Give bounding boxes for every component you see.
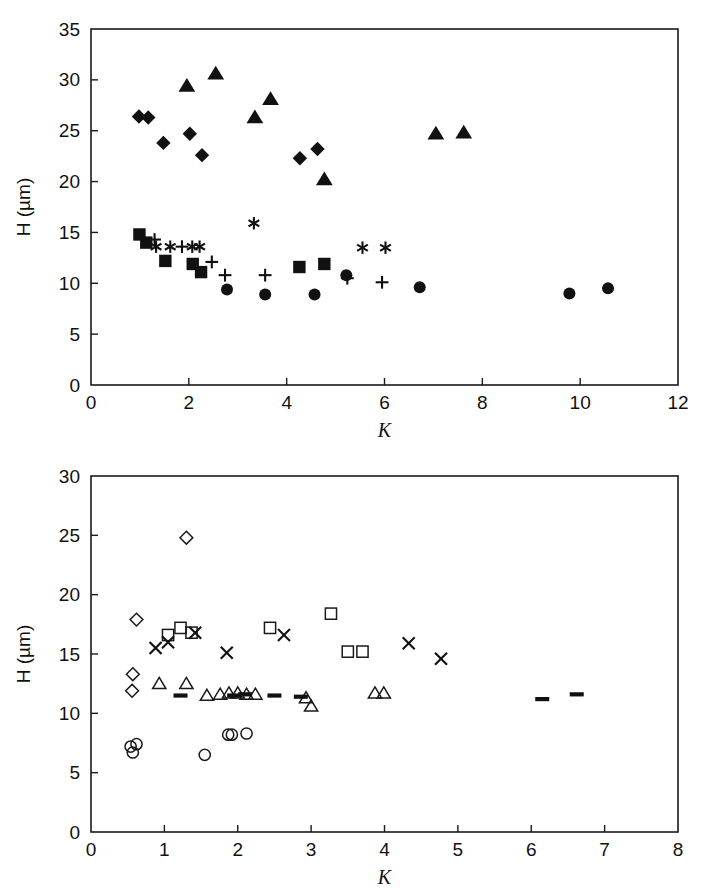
y-tick-label: 0	[69, 822, 80, 843]
plot-frame	[91, 29, 678, 385]
filled-square-marker	[140, 236, 152, 248]
series-filled-circle	[221, 269, 614, 300]
cross-marker	[435, 653, 447, 665]
filled-circle-marker	[563, 287, 575, 299]
open-triangle-marker	[377, 687, 390, 698]
filled-diamond-marker	[310, 142, 324, 156]
filled-square-marker	[318, 258, 330, 270]
filled-circle-marker	[221, 283, 233, 295]
dash-marker	[570, 692, 584, 696]
y-tick-label: 15	[59, 644, 80, 665]
filled-circle-marker	[414, 281, 426, 293]
open-diamond-marker	[130, 613, 143, 626]
dash-marker	[267, 693, 281, 697]
open-square-marker	[264, 622, 275, 633]
x-tick-label: 6	[526, 839, 537, 860]
x-axis: 024681012	[86, 378, 689, 413]
plot-frame	[91, 476, 678, 832]
y-tick-label: 25	[59, 525, 80, 546]
cross-marker	[278, 629, 290, 641]
open-diamond-marker	[126, 684, 139, 697]
y-axis: 051015202530	[59, 466, 98, 843]
x-tick-label: 3	[306, 839, 317, 860]
x-tick-label: 12	[667, 392, 688, 413]
filled-diamond-marker	[183, 127, 197, 141]
series-plus	[148, 233, 388, 289]
series-filled-square	[133, 228, 330, 278]
plus-marker	[176, 240, 189, 253]
filled-square-marker	[293, 261, 305, 273]
dash-marker	[535, 697, 549, 701]
dash-marker	[174, 693, 188, 697]
x-tick-label: 0	[86, 392, 97, 413]
series-filled-triangle	[178, 66, 472, 186]
x-tick-label: 0	[86, 839, 97, 860]
x-tick-label: 4	[281, 392, 292, 413]
cross-marker	[150, 642, 162, 654]
x-axis-title: K	[377, 419, 393, 441]
filled-diamond-marker	[195, 148, 209, 162]
asterisk-marker	[380, 241, 391, 253]
x-tick-label: 4	[379, 839, 390, 860]
scatter-plot-bottom: 051015202530012345678KH (µm)	[0, 447, 719, 894]
y-tick-label: 25	[59, 120, 80, 141]
x-tick-label: 1	[159, 839, 170, 860]
open-diamond-marker	[126, 668, 139, 681]
filled-circle-marker	[340, 269, 352, 281]
cross-marker	[189, 627, 201, 639]
plus-marker	[376, 276, 389, 289]
series-cross	[150, 627, 447, 665]
filled-square-marker	[195, 266, 207, 278]
series-filled-diamond	[132, 109, 325, 165]
open-triangle-marker	[368, 687, 381, 698]
filled-diamond-marker	[156, 136, 170, 150]
dash-marker	[238, 692, 252, 696]
y-tick-label: 15	[59, 222, 80, 243]
y-tick-label: 5	[69, 762, 80, 783]
scatter-panel-bottom: 051015202530012345678KH (µm)	[0, 447, 719, 894]
series-asterisk	[151, 217, 391, 254]
filled-triangle-marker	[178, 78, 195, 92]
x-tick-label: 2	[232, 839, 243, 860]
open-square-marker	[342, 646, 353, 657]
y-tick-label: 20	[59, 584, 80, 605]
open-triangle-marker	[180, 677, 193, 688]
filled-diamond-marker	[293, 151, 307, 165]
y-axis: 05101520253035	[59, 19, 98, 396]
asterisk-marker	[165, 240, 176, 252]
asterisk-marker	[187, 240, 198, 252]
open-circle-marker	[199, 749, 210, 760]
y-tick-label: 10	[59, 703, 80, 724]
y-axis-title: H (µm)	[13, 625, 34, 683]
filled-diamond-marker	[141, 110, 155, 124]
open-square-marker	[325, 608, 336, 619]
y-tick-label: 0	[69, 375, 80, 396]
filled-square-marker	[159, 255, 171, 267]
series-open-square	[162, 608, 368, 657]
x-tick-label: 6	[379, 392, 390, 413]
plus-marker	[259, 269, 272, 282]
filled-triangle-marker	[207, 66, 224, 80]
series-open-circle	[125, 728, 252, 761]
open-diamond-marker	[180, 531, 193, 544]
plus-marker	[219, 269, 232, 282]
open-triangle-marker	[153, 677, 166, 688]
y-tick-label: 35	[59, 19, 80, 40]
filled-circle-marker	[259, 288, 271, 300]
y-tick-label: 30	[59, 69, 80, 90]
y-tick-label: 20	[59, 171, 80, 192]
x-tick-label: 7	[599, 839, 610, 860]
cross-marker	[162, 636, 174, 648]
scatter-panel-top: 05101520253035024681012KH (µm)	[0, 0, 719, 447]
open-triangle-marker	[200, 689, 213, 700]
open-circle-marker	[241, 728, 252, 739]
filled-triangle-marker	[455, 125, 472, 139]
plus-marker	[205, 256, 218, 269]
asterisk-marker	[194, 240, 205, 252]
filled-triangle-marker	[427, 126, 444, 140]
cross-marker	[221, 647, 233, 659]
open-square-marker	[357, 646, 368, 657]
y-tick-label: 10	[59, 273, 80, 294]
filled-circle-marker	[309, 288, 321, 300]
x-axis: 012345678	[86, 825, 684, 860]
